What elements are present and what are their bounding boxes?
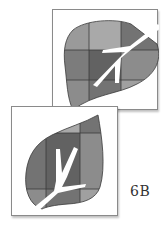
figure-label: 6B: [130, 183, 150, 199]
leaf-grid-icon: [12, 107, 119, 217]
bottom-leaf-panel: [11, 106, 118, 216]
leaf-grid-icon: [53, 10, 159, 111]
top-leaf-panel: [52, 9, 158, 110]
